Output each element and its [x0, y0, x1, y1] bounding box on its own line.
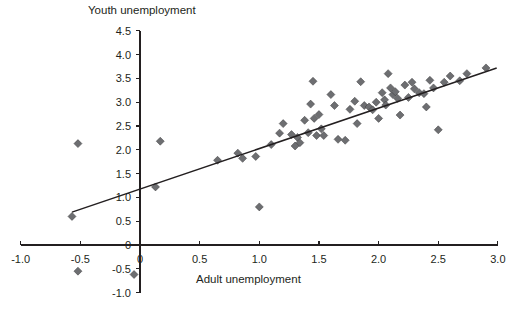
x-tick-label: 0	[137, 253, 143, 265]
data-point-marker	[301, 116, 309, 124]
y-tick-label: 4.0	[116, 49, 131, 61]
scatter-chart: -1.0-0.500.51.01.52.02.53.0-1.0-0.500.51…	[0, 0, 526, 311]
data-point-marker	[74, 267, 82, 275]
y-tick-label: 0	[125, 239, 131, 251]
data-point-marker	[401, 81, 409, 89]
chart-canvas: -1.0-0.500.51.01.52.02.53.0-1.0-0.500.51…	[0, 0, 526, 311]
x-axis-title: Adult unemployment	[196, 273, 302, 285]
data-point-marker	[434, 126, 442, 134]
data-point-marker	[276, 129, 284, 137]
data-point-marker	[396, 111, 404, 119]
x-tick-label: 2.0	[371, 253, 386, 265]
data-point-marker	[351, 97, 359, 105]
data-point-marker	[375, 114, 383, 122]
data-point-marker	[68, 212, 76, 220]
y-tick-label: 2.5	[116, 120, 131, 132]
data-point-marker	[334, 135, 342, 143]
data-point-marker	[384, 70, 392, 78]
tick-labels-group: -1.0-0.500.51.01.52.02.53.0-1.0-0.500.51…	[11, 25, 505, 299]
data-point-marker	[330, 102, 338, 110]
y-tick-label: 3.5	[116, 72, 131, 84]
data-points-group	[68, 64, 490, 279]
y-tick-label: -1.0	[112, 287, 131, 299]
data-point-marker	[378, 89, 386, 97]
data-point-marker	[353, 120, 361, 128]
trendline-group	[72, 68, 497, 212]
y-tick-label: -0.5	[112, 263, 131, 275]
data-point-marker	[357, 78, 365, 86]
x-tick-label: 1.0	[252, 253, 267, 265]
x-tick-label: 2.5	[431, 253, 446, 265]
data-point-marker	[252, 152, 260, 160]
data-point-marker	[341, 136, 349, 144]
data-point-marker	[327, 91, 335, 99]
y-tick-label: 2.0	[116, 144, 131, 156]
x-tick-label: 3.0	[490, 253, 505, 265]
y-tick-label: 4.5	[116, 25, 131, 37]
data-point-marker	[255, 203, 263, 211]
data-point-marker	[156, 137, 164, 145]
data-point-marker	[422, 103, 430, 111]
y-tick-label: 1.5	[116, 168, 131, 180]
x-tick-label: 1.5	[311, 253, 326, 265]
y-tick-label: 0.5	[116, 215, 131, 227]
data-point-marker	[313, 132, 321, 140]
data-point-marker	[446, 72, 454, 80]
data-point-marker	[346, 105, 354, 113]
y-axis-title: Youth unemployment	[88, 4, 196, 16]
x-tick-label: -0.5	[71, 253, 90, 265]
data-point-marker	[130, 271, 138, 279]
data-point-marker	[372, 98, 380, 106]
trend-line	[72, 68, 497, 212]
x-tick-label: 0.5	[192, 253, 207, 265]
data-point-marker	[279, 120, 287, 128]
data-point-marker	[307, 100, 315, 108]
data-point-marker	[309, 77, 317, 85]
data-point-marker	[74, 140, 82, 148]
y-tick-label: 3.0	[116, 96, 131, 108]
data-point-marker	[426, 76, 434, 84]
x-tick-label: -1.0	[11, 253, 30, 265]
